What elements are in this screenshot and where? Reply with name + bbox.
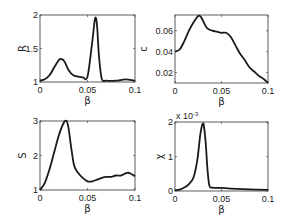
y-axis-label: S [17,152,28,158]
y-tick-label: 1 [168,152,173,162]
data-line-chi [175,123,268,190]
y-tick-label: 0.06 [155,26,173,36]
x-tick-label: 0 [37,85,42,95]
y-axis-label: c [138,46,149,52]
panel-c: 00.050.10.020.040.06βc [138,15,274,107]
x-tick-label: 0.05 [79,193,97,203]
axes-box [175,122,268,191]
x-tick-label: 0.05 [213,86,231,96]
y-axis-label: R [17,45,28,52]
y-tick-label: 2 [33,151,38,161]
y-axis-label: χ [154,153,165,159]
y-tick-label: 0.02 [155,68,173,78]
x-axis-label: β [218,204,224,215]
x-tick-label: 0.05 [79,85,97,95]
x-tick-label: 0.1 [129,193,142,203]
y-tick-label: 1 [33,185,38,195]
y-tick-label: 2 [168,117,173,127]
x-tick-label: 0 [172,194,177,204]
axes-box [175,15,268,83]
y-tick-label: 1 [33,77,38,87]
panel-chi: 00.050.1012βχx 10-3 [154,111,274,215]
panel-R: 00.050.111.52βR [17,10,141,106]
y-tick-label: 0 [168,186,173,196]
panel-S: 00.050.1123βS [17,116,141,214]
data-line-c [175,16,268,83]
x-tick-label: 0 [37,193,42,203]
y-scale-note: x 10-3 [176,111,199,121]
x-axis-label: β [84,95,90,106]
data-line-R [40,17,135,81]
y-tick-label: 3 [33,116,38,126]
x-tick-label: 0 [172,86,177,96]
y-tick-label: 0.04 [155,47,173,57]
figure: 00.050.111.52βR00.050.10.020.040.06βc00.… [0,0,287,221]
x-axis-label: β [218,96,224,107]
data-line-S [40,121,135,190]
x-tick-label: 0.05 [213,194,231,204]
x-tick-label: 0.1 [262,86,275,96]
x-tick-label: 0.1 [262,194,275,204]
x-axis-label: β [84,203,90,214]
axes-box [40,121,135,190]
y-tick-label: 2 [33,10,38,20]
x-tick-label: 0.1 [129,85,142,95]
